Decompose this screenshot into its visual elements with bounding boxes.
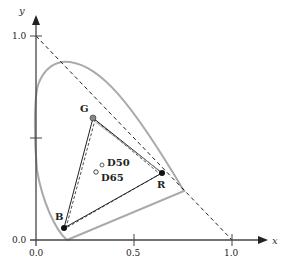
x-tick-label-05: 0.5 xyxy=(126,248,141,258)
y-tick-label-1: 1.0 xyxy=(12,31,27,41)
primary-r-label: R xyxy=(157,179,166,190)
primary-b-label: B xyxy=(55,211,63,222)
primary-g-label: G xyxy=(80,103,89,114)
chromaticity-diagram: y x 1.0 0.0 0.0 0.5 1.0 B G R D50 D65 xyxy=(0,0,292,263)
y-axis-label: y xyxy=(18,5,25,16)
d65-marker xyxy=(94,170,98,174)
d50-label: D50 xyxy=(107,157,130,168)
d65-label: D65 xyxy=(101,172,124,183)
primary-g-marker xyxy=(90,115,96,121)
x-tick-label-1: 1.0 xyxy=(224,248,239,258)
x-axis-arrow-icon xyxy=(258,236,268,244)
primary-b-marker xyxy=(61,225,67,231)
d50-marker xyxy=(100,163,104,167)
primary-r-marker xyxy=(159,170,165,176)
unit-sum-line xyxy=(36,36,232,240)
y-axis-arrow-icon xyxy=(32,15,40,25)
y-tick-label-0: 0.0 xyxy=(12,235,27,245)
x-tick-label-0: 0.0 xyxy=(29,248,44,258)
x-axis-label: x xyxy=(272,235,278,246)
